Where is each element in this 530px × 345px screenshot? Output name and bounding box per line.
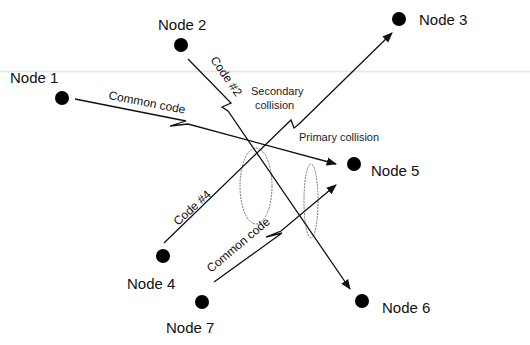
secondary-collision-label-line2: collision (255, 99, 294, 111)
node-3: Node 3 (392, 11, 467, 28)
node-dot (156, 249, 170, 263)
node-dot (347, 157, 361, 171)
node-label: Node 4 (127, 275, 175, 292)
node-dot (392, 12, 406, 26)
secondary-collision-ellipse (240, 148, 272, 224)
node-4: Node 4 (127, 249, 175, 292)
primary-collision-label: Primary collision (299, 131, 379, 143)
edge-label-code-4: Code #4 (171, 187, 214, 228)
node-dot (195, 295, 209, 309)
node-label: Node 6 (382, 299, 430, 316)
edge-label-code-2: Code #2 (208, 54, 246, 99)
node-1: Node 1 (10, 69, 69, 105)
collision-diagram: Common code Code #2 Code #4 Common code … (0, 0, 530, 345)
node-label: Node 5 (371, 162, 419, 179)
node-label: Node 2 (158, 16, 206, 33)
secondary-collision-label-line1: Secondary (251, 85, 304, 97)
node-label: Node 1 (10, 69, 58, 86)
node-label: Node 3 (419, 11, 467, 28)
node-7: Node 7 (166, 295, 214, 336)
edge-node7-node5: Common code (204, 185, 336, 282)
node-2: Node 2 (158, 16, 206, 52)
node-dot (174, 38, 188, 52)
node-5: Node 5 (347, 157, 419, 179)
node-dot (55, 91, 69, 105)
edge-label-common-code-1: Common code (107, 88, 187, 117)
edge-label-common-code-2: Common code (204, 214, 273, 275)
node-label: Node 7 (166, 319, 214, 336)
node-dot (355, 294, 369, 308)
node-6: Node 6 (355, 294, 430, 316)
